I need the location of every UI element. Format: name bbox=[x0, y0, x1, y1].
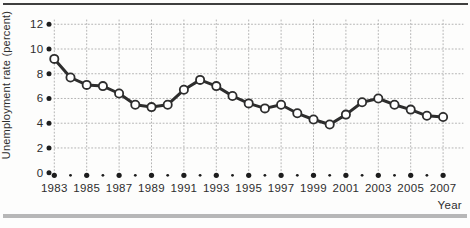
x-tick-dot bbox=[343, 173, 348, 178]
x-tick-dot bbox=[102, 174, 105, 177]
data-point-marker bbox=[66, 73, 74, 81]
y-tick-dot bbox=[47, 96, 52, 101]
x-tick-dot bbox=[441, 173, 446, 178]
x-tick-dot bbox=[264, 174, 267, 177]
x-tick-label: 1989 bbox=[138, 182, 165, 194]
x-tick-dot bbox=[296, 174, 299, 177]
y-tick-label: 0 bbox=[37, 167, 44, 179]
textbook-figure: 0246810121983198519871989199119931995199… bbox=[0, 0, 470, 228]
x-tick-dot bbox=[117, 173, 122, 178]
x-tick-label: 1997 bbox=[268, 182, 295, 194]
x-tick-dot bbox=[84, 173, 89, 178]
x-tick-label: 1987 bbox=[106, 182, 133, 194]
data-point-marker bbox=[83, 81, 91, 89]
x-tick-dot bbox=[231, 174, 234, 177]
y-tick-dot bbox=[47, 71, 52, 76]
x-tick-dot bbox=[166, 174, 169, 177]
x-tick-dot bbox=[181, 173, 186, 178]
data-point-marker bbox=[99, 82, 107, 90]
data-point-marker bbox=[50, 55, 58, 63]
data-point-marker bbox=[423, 112, 431, 120]
x-tick-dot bbox=[52, 173, 57, 178]
data-point-marker bbox=[115, 89, 123, 97]
y-tick-dot bbox=[47, 22, 52, 27]
data-point-marker bbox=[439, 113, 447, 121]
x-tick-dot bbox=[279, 173, 284, 178]
x-tick-dot bbox=[149, 173, 154, 178]
data-point-marker bbox=[293, 109, 301, 117]
x-tick-label: 1991 bbox=[171, 182, 198, 194]
y-tick-label: 12 bbox=[30, 18, 43, 30]
data-point-marker bbox=[277, 101, 285, 109]
data-point-marker bbox=[147, 103, 155, 111]
x-tick-dot bbox=[311, 173, 316, 178]
y-tick-dot bbox=[47, 170, 52, 175]
data-point-marker bbox=[164, 101, 172, 109]
data-point-marker bbox=[342, 111, 350, 119]
x-tick-dot bbox=[69, 174, 72, 177]
y-tick-dot bbox=[47, 145, 52, 150]
data-point-marker bbox=[309, 115, 317, 123]
bottom-band bbox=[3, 214, 467, 218]
data-point-marker bbox=[261, 104, 269, 112]
x-tick-dot bbox=[328, 174, 331, 177]
data-point-marker bbox=[228, 92, 236, 100]
x-tick-dot bbox=[246, 173, 251, 178]
y-tick-label: 8 bbox=[37, 68, 44, 80]
data-point-marker bbox=[196, 76, 204, 84]
data-point-marker bbox=[390, 101, 398, 109]
y-tick-dot bbox=[47, 121, 52, 126]
data-point-marker bbox=[407, 106, 415, 114]
data-point-marker bbox=[245, 99, 253, 107]
x-tick-dot bbox=[426, 174, 429, 177]
x-tick-label: 1999 bbox=[300, 182, 327, 194]
y-tick-label: 2 bbox=[37, 142, 44, 154]
x-tick-label: 1983 bbox=[41, 182, 68, 194]
x-tick-label: 1985 bbox=[73, 182, 100, 194]
x-tick-dot bbox=[376, 173, 381, 178]
x-tick-label: 2001 bbox=[333, 182, 360, 194]
data-point-marker bbox=[131, 101, 139, 109]
y-axis-title: Unemployment rate (percent) bbox=[0, 11, 12, 159]
x-tick-dot bbox=[408, 173, 413, 178]
data-point-marker bbox=[326, 120, 334, 128]
x-tick-label: 1995 bbox=[235, 182, 262, 194]
x-tick-dot bbox=[214, 173, 219, 178]
x-tick-label: 1993 bbox=[203, 182, 230, 194]
x-tick-label: 2005 bbox=[397, 182, 424, 194]
x-tick-label: 2007 bbox=[430, 182, 457, 194]
data-point-marker bbox=[374, 94, 382, 102]
x-tick-label: 2003 bbox=[365, 182, 392, 194]
grid-layer bbox=[54, 20, 463, 177]
y-tick-label: 6 bbox=[37, 92, 44, 104]
x-axis-title: Year bbox=[438, 199, 462, 211]
y-tick-label: 4 bbox=[37, 117, 44, 129]
x-tick-dot bbox=[393, 174, 396, 177]
data-point-marker bbox=[180, 86, 188, 94]
data-point-marker bbox=[358, 98, 366, 106]
x-tick-dot bbox=[134, 174, 137, 177]
y-tick-label: 10 bbox=[30, 43, 43, 55]
x-tick-dot bbox=[361, 174, 364, 177]
data-point-marker bbox=[212, 82, 220, 90]
unemployment-line-chart: 0246810121983198519871989199119931995199… bbox=[0, 0, 470, 228]
y-tick-dot bbox=[47, 47, 52, 52]
x-tick-dot bbox=[199, 174, 202, 177]
